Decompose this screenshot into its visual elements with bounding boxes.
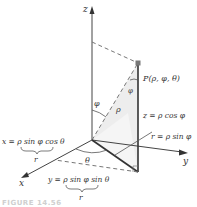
z-equation: z = ρ cos φ xyxy=(142,111,186,120)
y-arrow-icon xyxy=(179,150,188,156)
point-label: P(ρ, φ, θ) xyxy=(142,74,180,83)
phi-arc xyxy=(92,110,106,117)
x-equation: x = ρ sin φ cos θ xyxy=(2,137,65,146)
dashed-z-to-p xyxy=(92,42,138,63)
phi-label: φ xyxy=(94,99,100,108)
phi-label-2: φ xyxy=(128,87,133,95)
y-brace-label: r xyxy=(79,193,83,202)
theta-arc xyxy=(76,149,107,153)
x-axis-label: x xyxy=(19,178,24,188)
y-axis-label: y xyxy=(182,156,189,166)
point-p xyxy=(136,61,141,66)
x-brace xyxy=(21,147,53,154)
z-arrow-icon xyxy=(90,6,95,14)
y-equation: y = ρ sin φ sin θ xyxy=(47,175,110,184)
theta-label: θ xyxy=(85,156,90,165)
y-brace xyxy=(66,185,98,192)
rho-label: ρ xyxy=(115,105,121,114)
r-equation: r = ρ sin φ xyxy=(151,132,192,141)
figure-caption: FIGURE 14.56 xyxy=(2,199,62,207)
z-axis-label: z xyxy=(82,4,88,14)
spherical-coordinates-diagram: z y x P(ρ, φ, θ) φ φ ρ θ z = ρ cos φ r =… xyxy=(0,0,197,207)
x-brace-label: r xyxy=(34,155,38,164)
